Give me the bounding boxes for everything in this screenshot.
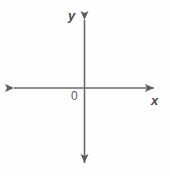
x-axis-label: x [151, 94, 158, 107]
coordinate-plane-figure: y x 0 [0, 0, 170, 176]
y-axis-label: y [68, 9, 75, 22]
origin-label: 0 [71, 90, 78, 102]
axes-drawing [0, 0, 170, 176]
